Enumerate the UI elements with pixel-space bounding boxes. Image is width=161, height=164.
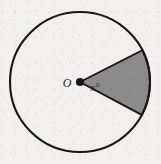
circle-diagram: O x°	[0, 0, 161, 164]
center-point-label: O	[63, 76, 72, 90]
geometry-figure: O x°	[0, 0, 161, 164]
center-point-dot	[76, 78, 84, 86]
sector-angle-label: x°	[90, 82, 101, 93]
